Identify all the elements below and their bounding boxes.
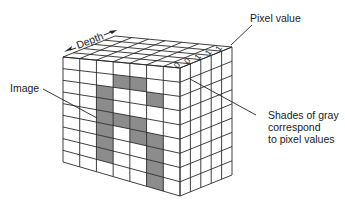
pixel-value-label: Pixel value [250,12,301,24]
pixel-value-digit: 0 [182,56,193,66]
right-face-grid [180,47,232,196]
depth-label: Depth [74,30,105,51]
image-label: Image [10,82,39,94]
pixel-value-digit: 1 [213,43,224,53]
pixel-value-digit: 0 [171,60,182,70]
pixel-value-digit: 1 [203,47,214,57]
pixel-cube: 00111 Depth [0,0,345,204]
pixel-value-digit: 1 [192,52,203,62]
pixel-value-leader-line [231,25,252,45]
shades-label-line-1: Shades of gray [268,109,339,121]
shades-label-line-3: to pixel values [268,133,335,145]
shades-leader-line [190,79,256,115]
diagram-canvas: 00111 Depth Image Pixel value Shades of … [0,0,345,204]
shades-label-line-2: correspond [268,121,321,133]
